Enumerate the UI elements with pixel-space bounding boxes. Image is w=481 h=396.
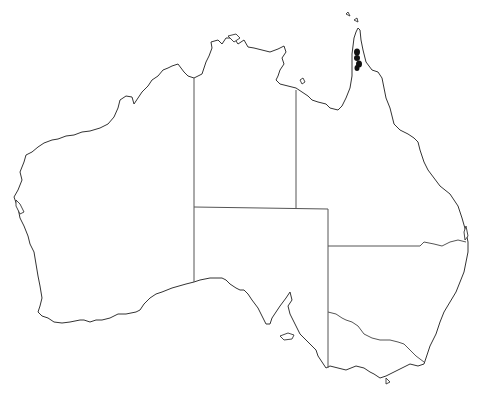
- record-point: [354, 55, 360, 61]
- torres-strait-islands: [346, 12, 358, 22]
- record-point: [354, 49, 360, 56]
- australia-distribution-map: [0, 0, 481, 396]
- mainland-coastline: [14, 28, 468, 378]
- kangaroo-island: [280, 333, 294, 340]
- groote-eylandt: [300, 78, 305, 84]
- record-point: [355, 65, 360, 71]
- wilsons-promontory: [386, 378, 390, 384]
